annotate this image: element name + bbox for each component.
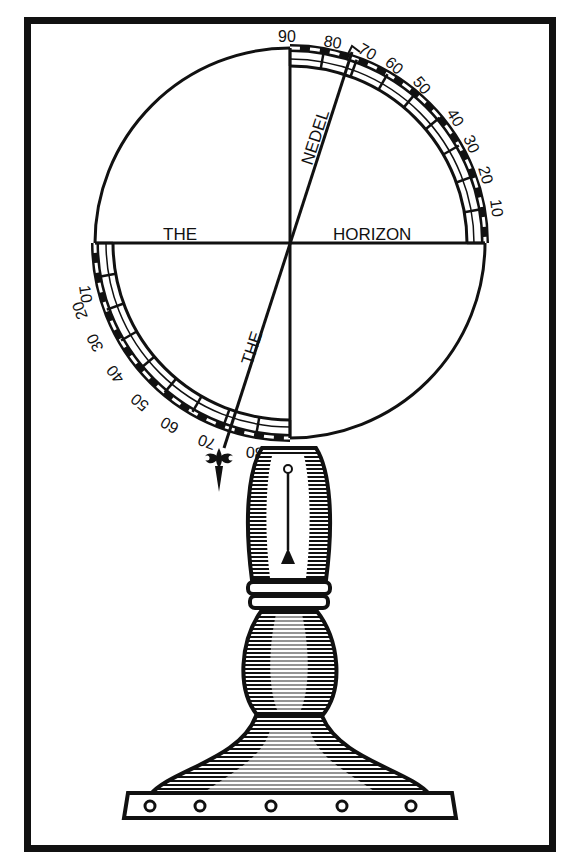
dip-circle-diagram: THE HORIZON NEDEL THE 90 80 70 60 50 40 … <box>0 0 571 862</box>
horizon-label-left: THE <box>163 225 197 244</box>
scale-label: 80 <box>322 32 343 52</box>
fleur-de-lis-icon <box>205 448 234 492</box>
scale-label: 10 <box>487 198 506 218</box>
collar-ring <box>248 582 330 608</box>
horizon-label-right: HORIZON <box>333 225 411 244</box>
scale-label: 30 <box>83 331 106 355</box>
scale-label: 10 <box>76 284 95 304</box>
scale-label-90-top: 90 <box>278 28 296 45</box>
scale-label: 50 <box>127 390 152 415</box>
scale-label: 70 <box>195 431 218 453</box>
scale-label: 40 <box>103 362 127 387</box>
dial: THE HORIZON NEDEL THE 90 80 70 60 50 40 … <box>69 28 507 492</box>
scale-label: 60 <box>157 413 181 437</box>
stand <box>124 448 456 818</box>
